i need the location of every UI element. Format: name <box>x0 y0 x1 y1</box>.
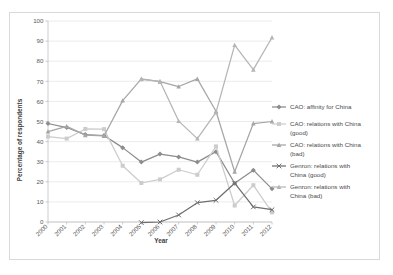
series-1 <box>46 127 274 214</box>
x-tick-label: 2006 <box>146 222 161 237</box>
series-3 <box>139 181 274 225</box>
y-tick-label: 90 <box>37 37 44 44</box>
data-point <box>158 177 162 181</box>
data-point <box>195 160 200 165</box>
legend-item-1[interactable]: CAO: relations with China(good) <box>272 120 361 135</box>
legend-swatch-marker <box>277 122 281 126</box>
data-point <box>195 76 200 80</box>
chart-legend: CAO: affinity for ChinaCAO: relations wi… <box>272 103 361 198</box>
data-point <box>232 43 237 47</box>
x-axis-tick-labels: 2000200120022003200420052006200720082009… <box>34 222 273 237</box>
chart-svg: 0102030405060708090100 20002001200220032… <box>0 0 393 275</box>
data-point <box>270 35 275 39</box>
data-point <box>176 119 181 123</box>
data-point <box>177 168 181 172</box>
x-tick-label: 2004 <box>109 222 124 237</box>
legend-label: (good) <box>290 129 308 136</box>
y-tick-label: 30 <box>37 158 44 165</box>
legend-label: (bad) <box>290 150 304 157</box>
x-tick-label: 2003 <box>90 222 105 237</box>
data-point <box>83 127 87 131</box>
y-tick-label: 60 <box>37 98 44 105</box>
x-tick-label: 2010 <box>221 222 236 237</box>
y-tick-label: 40 <box>37 138 44 145</box>
x-tick-label: 2008 <box>183 222 198 237</box>
data-point <box>139 181 143 185</box>
legend-item-2[interactable]: CAO: relations with China(bad) <box>272 141 361 156</box>
data-point <box>251 183 255 187</box>
y-tick-label: 20 <box>37 178 44 185</box>
x-tick-label: 2002 <box>71 222 86 237</box>
gridlines <box>48 21 272 222</box>
legend-label: Genron: relations with <box>290 183 351 190</box>
y-tick-label: 50 <box>37 118 44 125</box>
legend-label: CAO: relations with China <box>290 120 361 127</box>
legend-label: China (good) <box>290 171 326 178</box>
data-series-group <box>46 35 275 225</box>
data-point <box>195 173 199 177</box>
x-tick-label: 2007 <box>165 222 180 237</box>
data-point <box>64 124 69 128</box>
legend-label: CAO: relations with China <box>290 141 361 148</box>
legend-item-0[interactable]: CAO: affinity for China <box>272 103 352 110</box>
x-tick-label: 2011 <box>240 222 255 237</box>
x-tick-label: 2001 <box>53 222 68 237</box>
data-point <box>158 152 163 157</box>
x-tick-label: 2012 <box>258 222 273 237</box>
legend-item-4[interactable]: Genron: relations withChina (bad) <box>272 183 351 198</box>
y-axis-tick-labels: 0102030405060708090100 <box>33 17 44 225</box>
y-tick-label: 80 <box>37 57 44 64</box>
x-tick-label: 2009 <box>202 222 217 237</box>
legend-label: Genron: relations with <box>290 162 351 169</box>
x-tick-label: 2000 <box>34 222 49 237</box>
y-tick-label: 10 <box>37 198 44 205</box>
data-point <box>176 154 181 159</box>
legend-item-3[interactable]: Genron: relations withChina (good) <box>272 162 351 177</box>
y-tick-label: 70 <box>37 78 44 85</box>
x-axis-title: Year <box>154 237 168 244</box>
y-tick-label: 100 <box>33 17 44 24</box>
data-point <box>102 127 106 131</box>
series-2 <box>46 76 275 173</box>
series-line <box>141 183 272 222</box>
data-point <box>121 164 125 168</box>
y-axis-title: Percentage of respondents <box>16 98 24 181</box>
series-line <box>48 79 272 172</box>
data-point <box>233 204 237 208</box>
legend-label: China (bad) <box>290 192 322 199</box>
line-chart: 0102030405060708090100 20002001200220032… <box>0 0 393 275</box>
legend-swatch-marker <box>277 105 282 110</box>
data-point <box>65 137 69 141</box>
axes <box>46 21 273 225</box>
legend-label: CAO: affinity for China <box>290 103 352 110</box>
data-point <box>214 144 218 148</box>
x-tick-label: 2005 <box>127 222 142 237</box>
data-point <box>232 169 237 173</box>
data-point <box>46 135 50 139</box>
